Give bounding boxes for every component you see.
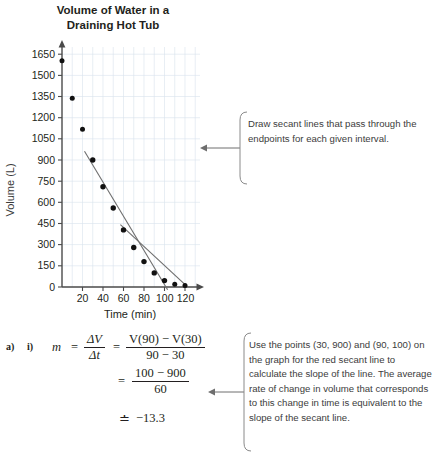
y-tick-900: 900 xyxy=(37,154,55,166)
delta-v: ΔV xyxy=(84,332,105,347)
data-point xyxy=(131,245,136,250)
part-label-a: a) xyxy=(6,341,14,352)
x-tick-120: 120 xyxy=(177,292,195,304)
y-axis-label: Volume (L) xyxy=(4,163,16,216)
data-point xyxy=(121,227,126,232)
y-tick-1350: 1350 xyxy=(32,90,56,102)
numerator-v-terms: V(90) − V(30) xyxy=(126,332,205,347)
callout-top-text: Draw secant lines that pass through the … xyxy=(248,117,438,146)
y-tick-150: 150 xyxy=(37,259,55,271)
secant-line-60-120 xyxy=(120,225,187,287)
callout-bottom-text: Use the points (30, 900) and (90, 100) o… xyxy=(249,338,435,426)
scatter-plot: 0 150 300 450 600 750 900 1050 1200 1350… xyxy=(0,0,215,330)
equals-sign-3: = xyxy=(118,374,125,389)
x-axis-label: Time (min) xyxy=(104,308,156,320)
numerator-values: 100 − 900 xyxy=(132,366,189,381)
y-tick-labels: 0 150 300 450 600 750 900 1050 1200 1350… xyxy=(32,48,56,293)
data-point xyxy=(183,283,188,288)
equation-block: a) i) m = ΔV Δt = V(90) − V(30) 90 − 30 … xyxy=(0,330,240,461)
y-tick-1500: 1500 xyxy=(32,69,56,81)
secant-lines xyxy=(85,151,188,290)
data-point xyxy=(141,259,146,264)
data-point xyxy=(152,270,157,275)
denominator-time-terms: 90 − 30 xyxy=(126,347,205,363)
delta-fraction: ΔV Δt xyxy=(84,332,105,363)
x-tick-80: 80 xyxy=(138,292,150,304)
y-tick-450: 450 xyxy=(37,217,55,229)
worksheet-page: Volume of Water in a Draining Hot Tub xyxy=(0,0,443,461)
y-tick-1650: 1650 xyxy=(32,48,56,60)
y-axis-arrow xyxy=(59,40,66,48)
x-tick-100: 100 xyxy=(156,292,174,304)
y-tick-1050: 1050 xyxy=(32,132,56,144)
data-point xyxy=(162,278,167,283)
data-point xyxy=(70,96,75,101)
x-tick-40: 40 xyxy=(97,292,109,304)
denominator-value: 60 xyxy=(132,381,189,397)
delta-t: Δt xyxy=(84,347,105,363)
slope-result: −13.3 xyxy=(136,411,165,426)
y-tick-600: 600 xyxy=(37,196,55,208)
equals-sign-1: = xyxy=(71,340,78,355)
x-tick-20: 20 xyxy=(77,292,89,304)
chart-panel: Volume of Water in a Draining Hot Tub xyxy=(0,0,215,330)
data-point xyxy=(100,184,105,189)
grid-lines xyxy=(62,47,200,287)
x-tick-60: 60 xyxy=(118,292,130,304)
y-tick-0: 0 xyxy=(49,281,55,293)
data-point xyxy=(172,282,177,287)
data-point xyxy=(111,205,116,210)
equals-sign-2: = xyxy=(113,340,120,355)
slope-variable: m xyxy=(52,340,61,355)
y-tick-1200: 1200 xyxy=(32,111,56,123)
data-point xyxy=(90,157,95,162)
x-axis-arrow xyxy=(197,284,205,291)
top-callout-connector xyxy=(200,108,250,188)
y-tick-300: 300 xyxy=(37,238,55,250)
data-point xyxy=(80,127,85,132)
v-difference-fraction: V(90) − V(30) 90 − 30 xyxy=(126,332,205,363)
numeric-fraction: 100 − 900 60 xyxy=(132,366,189,397)
part-label-i: i) xyxy=(27,341,33,352)
approx-equals-sign: ≐ xyxy=(119,411,130,427)
secant-line-30-90 xyxy=(85,151,168,290)
y-tick-750: 750 xyxy=(37,175,55,187)
data-point xyxy=(60,58,65,63)
x-tick-labels: 20 40 60 80 100 120 xyxy=(77,292,195,304)
